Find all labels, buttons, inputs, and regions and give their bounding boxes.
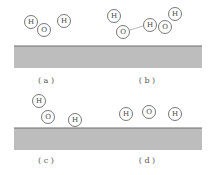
atom-symbol: H (111, 12, 117, 20)
panel-label-c: ( c ) (38, 156, 54, 165)
atom-symbol: O (45, 113, 51, 121)
atom-o: O (159, 21, 172, 34)
water-adsorption-diagram: HOHHOHOHHOHHOH ( a )( b )( c )( d ) (0, 0, 212, 175)
atom-symbol: H (147, 21, 153, 29)
panel-label-b: ( b ) (139, 76, 155, 85)
atom-symbol: O (162, 23, 168, 31)
hydrogen-bond-line (130, 26, 143, 30)
atom-h: H (25, 16, 38, 29)
bonds (130, 26, 143, 30)
atom-symbol: H (28, 18, 34, 26)
atom-h: H (144, 19, 157, 32)
surface-slab (14, 128, 202, 150)
atom-symbol: H (172, 110, 178, 118)
atom-symbol: O (41, 26, 47, 34)
atom-h: H (108, 10, 121, 23)
atom-symbol: H (172, 10, 178, 18)
surface-slab (14, 46, 202, 68)
panel-label-d: ( d ) (139, 156, 155, 165)
panel-labels: ( a )( b )( c )( d ) (38, 76, 155, 165)
atom-symbol: H (123, 110, 129, 118)
atom-h: H (33, 95, 46, 108)
atom-symbol: H (72, 116, 78, 124)
atom-symbol: H (36, 97, 42, 105)
atom-h: H (58, 15, 71, 28)
atom-o: O (42, 111, 55, 124)
atom-h: H (169, 108, 182, 121)
atom-symbol: H (61, 17, 67, 25)
atom-o: O (38, 24, 51, 37)
atom-h: H (69, 114, 82, 127)
atom-o: O (143, 106, 156, 119)
atom-h: H (120, 108, 133, 121)
atom-symbol: O (120, 28, 126, 36)
atom-h: H (169, 8, 182, 21)
atom-o: O (117, 26, 130, 39)
atom-symbol: O (146, 108, 152, 116)
panel-label-a: ( a ) (38, 76, 54, 85)
